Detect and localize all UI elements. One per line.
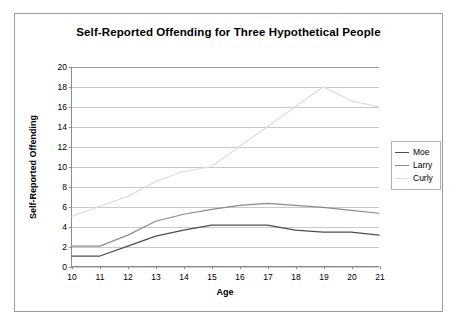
x-axis-title: Age xyxy=(71,287,379,297)
x-tick-label: 18 xyxy=(291,272,300,282)
x-tick-label: 19 xyxy=(319,272,328,282)
x-tick-mark xyxy=(128,266,129,269)
series-line-curly xyxy=(72,87,379,216)
y-tick-label: 14 xyxy=(58,122,67,132)
legend-label: Curly xyxy=(413,174,433,183)
x-tick-label: 16 xyxy=(235,272,244,282)
y-tick-label: 6 xyxy=(62,202,67,212)
x-tick-label: 20 xyxy=(347,272,356,282)
y-tick-label: 10 xyxy=(58,162,67,172)
legend-swatch-moe-icon xyxy=(395,152,409,153)
gridline xyxy=(72,267,379,268)
x-tick-label: 17 xyxy=(263,272,272,282)
y-tick-label: 0 xyxy=(62,262,67,272)
x-tick-mark xyxy=(184,266,185,269)
chart-figure: Self-Reported Offending for Three Hypoth… xyxy=(14,13,443,312)
x-tick-label: 21 xyxy=(375,272,384,282)
x-tick-label: 11 xyxy=(96,272,105,282)
x-tick-mark xyxy=(380,266,381,269)
legend-item-larry[interactable]: Larry xyxy=(395,159,436,172)
plot-area: 02468101214161820 1011121314151617181920… xyxy=(71,67,379,267)
legend-item-moe[interactable]: Moe xyxy=(395,146,436,159)
y-tick-label: 12 xyxy=(58,142,67,152)
x-tick-label: 12 xyxy=(123,272,132,282)
series-lines xyxy=(72,67,379,266)
x-tick-mark xyxy=(156,266,157,269)
x-tick-mark xyxy=(352,266,353,269)
legend-label: Larry xyxy=(413,161,432,170)
y-tick-label: 20 xyxy=(58,62,67,72)
legend-item-curly[interactable]: Curly xyxy=(395,172,436,185)
x-tick-label: 10 xyxy=(67,272,76,282)
legend-swatch-curly-icon xyxy=(395,178,409,179)
x-tick-label: 15 xyxy=(207,272,216,282)
x-tick-mark xyxy=(324,266,325,269)
x-tick-mark xyxy=(72,266,73,269)
legend-label: Moe xyxy=(413,148,430,157)
x-tick-label: 13 xyxy=(151,272,160,282)
x-tick-mark xyxy=(100,266,101,269)
y-tick-label: 4 xyxy=(62,222,67,232)
x-tick-mark xyxy=(296,266,297,269)
chart-title: Self-Reported Offending for Three Hypoth… xyxy=(15,26,442,38)
x-tick-mark xyxy=(212,266,213,269)
y-tick-label: 18 xyxy=(58,82,67,92)
x-tick-mark xyxy=(240,266,241,269)
y-tick-label: 2 xyxy=(62,242,67,252)
chart-legend: MoeLarryCurly xyxy=(391,141,441,190)
x-tick-label: 14 xyxy=(179,272,188,282)
legend-swatch-larry-icon xyxy=(395,165,409,166)
x-tick-mark xyxy=(268,266,269,269)
series-line-moe xyxy=(72,225,379,256)
y-axis-title: Self-Reported Offending xyxy=(28,115,38,219)
y-tick-label: 16 xyxy=(58,102,67,112)
y-tick-label: 8 xyxy=(62,182,67,192)
